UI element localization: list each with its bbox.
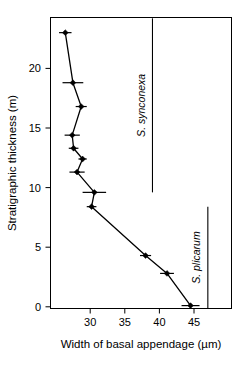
- species-annotations: S. synconexa S. plicarum: [135, 18, 208, 308]
- x-axis-tick-labels: 30 35 40 45: [84, 316, 200, 328]
- y-tick-label-5: 5: [35, 241, 41, 253]
- series-line: [65, 33, 190, 306]
- chart-canvas: 30 35 40 45 Width of basal appendage (µm…: [0, 0, 250, 374]
- data-point-marker: [70, 80, 76, 86]
- data-markers: [62, 30, 193, 309]
- x-axis-ticks: [90, 309, 194, 314]
- plicarum-range-label: S. plicarum: [190, 231, 202, 284]
- y-tick-label-10: 10: [29, 182, 41, 194]
- data-series: [59, 30, 199, 309]
- data-point-marker: [69, 132, 75, 138]
- synconexa-range-label: S. synconexa: [135, 74, 147, 137]
- error-bars: [59, 33, 199, 306]
- x-tick-label-45: 45: [188, 316, 200, 328]
- y-axis-title: Stratigraphic thickness (m): [6, 95, 18, 231]
- x-tick-label-40: 40: [153, 316, 165, 328]
- x-tick-label-35: 35: [119, 316, 131, 328]
- x-axis: 30 35 40 45 Width of basal appendage (µm…: [61, 309, 222, 351]
- x-axis-title: Width of basal appendage (µm): [61, 338, 222, 350]
- annotation-synconexa: S. synconexa: [135, 18, 153, 192]
- x-tick-label-30: 30: [84, 316, 96, 328]
- data-point-marker: [78, 104, 84, 110]
- figure-container: 30 35 40 45 Width of basal appendage (µm…: [0, 0, 250, 374]
- y-tick-label-0: 0: [35, 301, 41, 313]
- y-axis-tick-labels: 0 5 10 15 20: [29, 62, 41, 312]
- plot-frame: [51, 18, 232, 309]
- y-tick-label-20: 20: [29, 62, 41, 74]
- annotation-plicarum: S. plicarum: [190, 207, 208, 309]
- y-axis-ticks: [46, 68, 51, 306]
- data-point-marker: [62, 30, 68, 36]
- y-tick-label-15: 15: [29, 122, 41, 134]
- y-axis: 0 5 10 15 20 Stratigraphic thickness (m): [6, 62, 51, 312]
